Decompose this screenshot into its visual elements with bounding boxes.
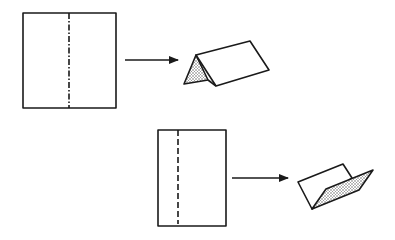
step-valley-fold [158,130,373,226]
v-fold-result [298,164,373,209]
unfolded-square-2 [158,130,226,226]
tent-fold-result [184,41,269,86]
step-mountain-fold [23,13,269,108]
folding-diagram [0,0,395,240]
